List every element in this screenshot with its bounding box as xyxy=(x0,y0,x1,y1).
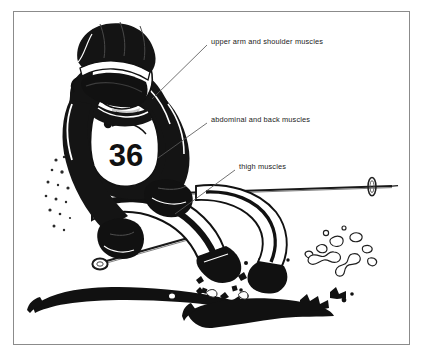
diagram-root: 36 xyxy=(0,0,424,360)
label-thigh-muscles: thigh muscles xyxy=(239,163,286,171)
label-upper-arm-and-shoulder-muscles: upper arm and shoulder muscles xyxy=(211,38,323,46)
label-abdominal-and-back-muscles: abdominal and back muscles xyxy=(211,116,310,124)
figure-frame xyxy=(13,11,410,345)
